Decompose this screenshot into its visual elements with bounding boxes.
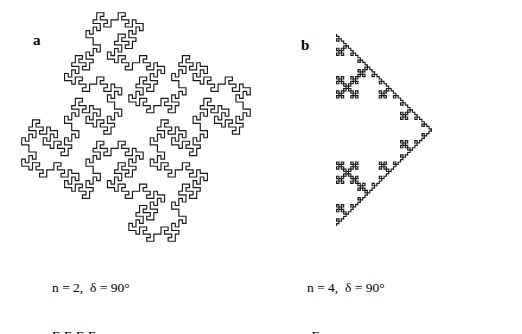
panel-a-curve: [14, 8, 258, 246]
panel-b-curve-svg: [246, 30, 522, 230]
panel-a-curve-svg: [14, 8, 258, 246]
panel-b-params: n = 4, δ = 90°: [307, 280, 397, 296]
panel-a-caption: n = 2, δ = 90° F-F-F-F F → F+FF-FF-F-F+F…: [52, 248, 184, 334]
panel-a: a n = 2, δ = 90° F-F-F-F F → F+FF-FF-F-F…: [0, 0, 258, 334]
panel-b-caption: n = 4, δ = 90° -F F → F+F-F-F+F: [307, 248, 397, 334]
panel-a-params: n = 2, δ = 90°: [52, 280, 184, 296]
panel-b-axiom: -F: [307, 328, 397, 334]
panel-b-curve: [246, 30, 522, 230]
panel-b: b n = 4, δ = 90° -F F → F+F-F-F+F: [258, 0, 522, 334]
panel-a-curve-path: [22, 13, 250, 241]
lsystem-figure: a n = 2, δ = 90° F-F-F-F F → F+FF-FF-F-F…: [0, 0, 522, 334]
panel-b-curve-path: [337, 34, 432, 226]
panel-a-axiom: F-F-F-F: [52, 328, 184, 334]
